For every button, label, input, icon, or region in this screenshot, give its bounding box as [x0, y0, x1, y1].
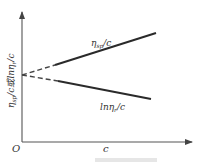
eta-sp-rest: /c	[102, 38, 111, 48]
ln-eta-r-rest: /c	[116, 102, 125, 112]
cropped-caption	[95, 158, 157, 162]
ln-eta-r-label: lnηr/c	[100, 102, 125, 113]
eta-sp-extrapolation-dashed	[22, 65, 55, 75]
ln-eta-r-main: lnη	[100, 102, 115, 112]
y-label-end: /c	[6, 54, 16, 63]
origin-label: O	[12, 143, 20, 154]
series-ln-eta-r-over-c: lnηr/c	[22, 75, 151, 113]
series-eta-sp-over-c: ηsp/c	[22, 33, 156, 75]
ln-eta-r-line	[58, 81, 151, 99]
x-axis-label: c	[103, 143, 109, 154]
ln-eta-r-extrapolation-dashed	[22, 75, 58, 81]
y-axis-label: ηsp/c或lnηr/c	[6, 54, 18, 108]
viscosity-concentration-chart: O c ηsp/c或lnηr/c ηsp/c lnηr/c	[0, 0, 197, 165]
y-label-mid: /c或lnη	[6, 64, 16, 97]
